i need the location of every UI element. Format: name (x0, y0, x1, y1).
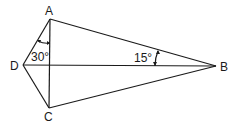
kite-diagram: A B C D 30° 15° (0, 0, 239, 132)
point-label-c: C (44, 110, 53, 124)
segment-bc (49, 66, 216, 108)
angle-label-30: 30° (31, 50, 49, 64)
segment-db (23, 65, 216, 66)
segment-ab (50, 19, 216, 66)
point-label-b: B (220, 60, 228, 74)
arrowhead-b-top (156, 50, 160, 54)
segment-cd (23, 65, 49, 108)
point-label-d: D (10, 59, 19, 73)
angle-label-15: 15° (134, 51, 152, 65)
point-label-a: A (45, 4, 53, 18)
